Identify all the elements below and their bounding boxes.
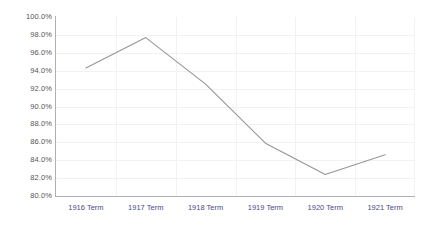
x-axis-tick-label: 1919 Term	[236, 203, 296, 212]
x-axis-tick-label: 1920 Term	[295, 203, 355, 212]
x-axis-tick-label: 1916 Term	[56, 203, 116, 212]
x-axis-tick-label: 1918 Term	[176, 203, 236, 212]
x-axis-tick-label: 1921 Term	[355, 203, 415, 212]
series-line	[86, 38, 385, 175]
line-chart: 100.0%98.0%96.0%94.0%92.0%90.0%88.0%86.0…	[0, 0, 433, 241]
x-axis-tick-label: 1917 Term	[116, 203, 176, 212]
